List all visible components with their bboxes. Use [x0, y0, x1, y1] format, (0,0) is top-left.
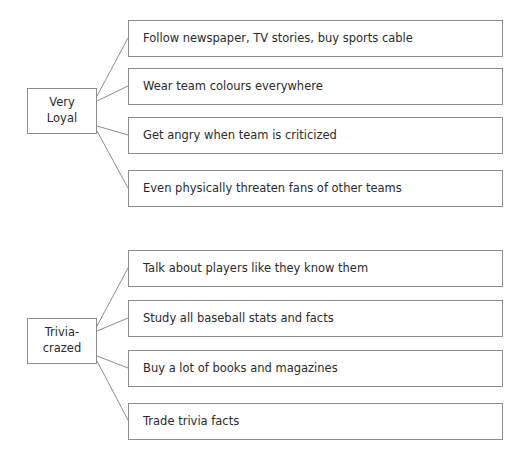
diagram-canvas: Very Loyal Follow newspaper, TV stories,… [0, 0, 532, 466]
parent-node-label: Trivia- crazed [43, 325, 82, 357]
leaf-node-label: Trade trivia facts [143, 414, 239, 429]
leaf-node[interactable]: Follow newspaper, TV stories, buy sports… [128, 20, 503, 57]
parent-node-label: Very Loyal [47, 95, 77, 127]
leaf-node-label: Wear team colours everywhere [143, 79, 323, 94]
leaf-node[interactable]: Wear team colours everywhere [128, 68, 503, 105]
parent-node-very-loyal[interactable]: Very Loyal [27, 88, 97, 134]
leaf-node-label: Buy a lot of books and magazines [143, 361, 338, 376]
connector-trivia-2 [97, 318, 128, 331]
parent-node-trivia-crazed[interactable]: Trivia- crazed [27, 318, 97, 364]
leaf-node[interactable]: Trade trivia facts [128, 403, 503, 440]
connector-loyal-4 [97, 131, 128, 188]
leaf-node[interactable]: Even physically threaten fans of other t… [128, 170, 503, 207]
connector-loyal-3 [97, 126, 128, 135]
leaf-node[interactable]: Study all baseball stats and facts [128, 300, 503, 337]
leaf-node-label: Follow newspaper, TV stories, buy sports… [143, 31, 413, 46]
connector-trivia-1 [97, 268, 128, 326]
leaf-node-label: Get angry when team is criticized [143, 128, 337, 143]
leaf-node-label: Talk about players like they know them [143, 261, 368, 276]
leaf-node-label: Study all baseball stats and facts [143, 311, 334, 326]
connector-trivia-3 [97, 356, 128, 368]
connector-trivia-4 [97, 361, 128, 420]
leaf-node-label: Even physically threaten fans of other t… [143, 181, 402, 196]
connector-loyal-2 [97, 86, 128, 101]
leaf-node[interactable]: Get angry when team is criticized [128, 117, 503, 154]
leaf-node[interactable]: Buy a lot of books and magazines [128, 350, 503, 387]
leaf-node[interactable]: Talk about players like they know them [128, 250, 503, 287]
connector-loyal-1 [97, 38, 128, 96]
